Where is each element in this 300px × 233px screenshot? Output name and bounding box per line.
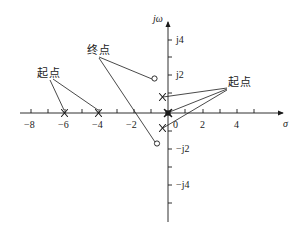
zero-marker-upper [152,76,157,81]
imaginary-axis-label: jω [153,14,163,24]
x-tick-label-2: 2 [200,120,205,130]
zero-marker-lower [154,141,159,146]
root-locus-plot: −8 −6 −4 −2 0 2 4 j4 j2 −j2 −j4 jω σ 起点 … [0,0,300,233]
x-tick-label-minus8: −8 [24,120,35,130]
y-tick-label-j4: j4 [176,35,184,45]
annotation-end-top: 终点 [87,45,110,56]
y-tick-label-j2: j2 [176,70,184,80]
annotation-start-right: 起点 [228,77,251,88]
real-axis [20,109,283,113]
annotation-start-left: 起点 [37,68,60,79]
imaginary-axis-ticks [168,40,172,203]
real-axis-label: σ [283,119,288,129]
pole-marker-lower-complex [160,125,166,132]
x-tick-label-minus4: −4 [92,120,103,130]
x-tick-label-minus6: −6 [58,120,69,130]
imaginary-axis [168,22,172,222]
pole-zero-diagram [0,0,300,233]
pole-marker-origin-double [165,110,172,117]
pole-markers [62,94,172,132]
y-tick-label-minus-j4: −j4 [176,180,189,190]
x-tick-label-4: 4 [234,120,239,130]
leader-lines-start-left [50,79,98,110]
zero-markers [152,76,160,146]
x-tick-label-minus2: −2 [126,120,137,130]
x-tick-label-zero: 0 [173,120,178,130]
y-tick-label-minus-j2: −j2 [176,144,189,154]
